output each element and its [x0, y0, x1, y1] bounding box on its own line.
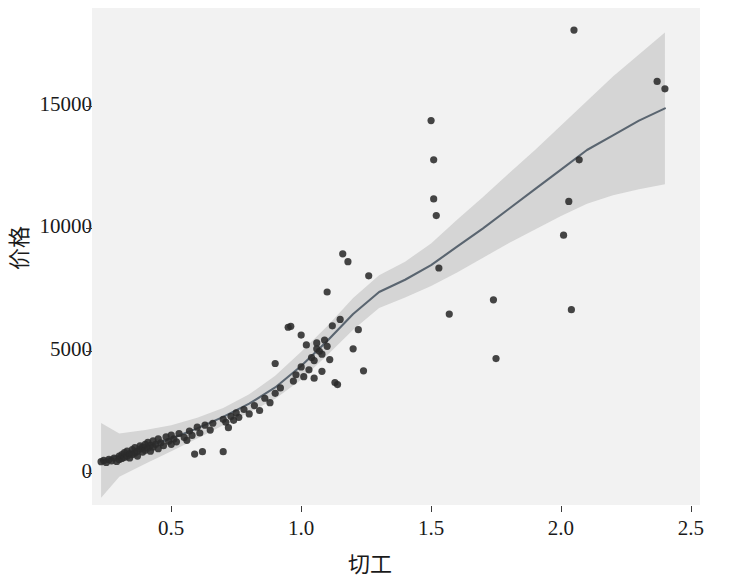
scatter-point: [318, 351, 325, 358]
scatter-point: [277, 384, 284, 391]
scatter-point: [300, 373, 307, 380]
confidence-band: [101, 32, 665, 497]
scatter-point: [654, 78, 661, 85]
x-axis-title: 切工: [0, 546, 740, 578]
scatter-point: [326, 356, 333, 363]
scatter-point: [334, 381, 341, 388]
y-tick-mark: [86, 351, 92, 352]
scatter-point: [565, 198, 572, 205]
scatter-point: [292, 371, 299, 378]
scatter-point: [266, 399, 273, 406]
scatter-point: [318, 368, 325, 375]
x-tick-mark: [561, 506, 562, 512]
scatter-point: [290, 378, 297, 385]
scatter-point: [560, 232, 567, 239]
x-tick-mark: [301, 506, 302, 512]
scatter-point: [492, 355, 499, 362]
x-tick-mark: [431, 506, 432, 512]
scatter-point: [311, 375, 318, 382]
x-tick-label: 2.0: [548, 516, 574, 541]
scatter-point: [235, 414, 242, 421]
scatter-point: [365, 272, 372, 279]
scatter-point: [272, 360, 279, 367]
scatter-point: [298, 363, 305, 370]
scatter-point: [427, 117, 434, 124]
scatter-point: [324, 288, 331, 295]
confidence-band-group: [101, 32, 665, 497]
scatter-point: [570, 26, 577, 33]
scatter-point: [303, 341, 310, 348]
scatter-point: [446, 310, 453, 317]
x-tick-label: 1.0: [288, 516, 314, 541]
x-tick-label: 2.5: [678, 516, 704, 541]
scatter-point: [355, 326, 362, 333]
scatter-point: [430, 156, 437, 163]
scatter-point: [272, 390, 279, 397]
scatter-point: [311, 357, 318, 364]
y-tick-mark: [86, 106, 92, 107]
scatter-point: [220, 448, 227, 455]
y-axis-title: 价格: [1, 203, 33, 293]
scatter-point: [173, 438, 180, 445]
y-tick-label: 10000: [40, 214, 93, 239]
scatter-point: [337, 316, 344, 323]
scatter-point: [329, 322, 336, 329]
y-tick-label: 5000: [50, 337, 92, 362]
scatter-point: [287, 323, 294, 330]
scatter-point: [256, 407, 263, 414]
y-tick-mark: [86, 473, 92, 474]
scatter-point: [191, 450, 198, 457]
scatter-point: [188, 432, 195, 439]
scatter-points-group: [97, 26, 668, 466]
scatter-point: [324, 343, 331, 350]
scatter-point: [321, 336, 328, 343]
scatter-point: [207, 426, 214, 433]
scatter-point: [344, 258, 351, 265]
x-tick-mark: [691, 506, 692, 512]
scatter-point: [435, 264, 442, 271]
scatter-point: [350, 345, 357, 352]
y-tick-label: 0: [82, 459, 93, 484]
plot-panel: [92, 8, 700, 505]
y-tick-mark: [86, 228, 92, 229]
scatter-point: [339, 250, 346, 257]
x-tick-mark: [171, 506, 172, 512]
scatter-point: [661, 85, 668, 92]
scatter-point: [433, 212, 440, 219]
scatter-point: [430, 195, 437, 202]
scatter-point: [305, 366, 312, 373]
scatter-point: [225, 424, 232, 431]
scatter-point: [246, 410, 253, 417]
scatter-point: [576, 156, 583, 163]
scatter-point: [313, 339, 320, 346]
plot-svg: [92, 8, 700, 505]
scatter-point: [196, 429, 203, 436]
scatter-point: [209, 420, 216, 427]
scatter-point: [298, 331, 305, 338]
x-tick-label: 1.5: [418, 516, 444, 541]
scatter-point: [568, 306, 575, 313]
scatter-point: [490, 296, 497, 303]
chart-root: 050001000015000 0.51.01.52.02.5 价格 切工: [0, 0, 740, 586]
scatter-point: [199, 448, 206, 455]
x-tick-label: 0.5: [158, 516, 184, 541]
scatter-point: [360, 367, 367, 374]
y-tick-label: 15000: [40, 92, 93, 117]
